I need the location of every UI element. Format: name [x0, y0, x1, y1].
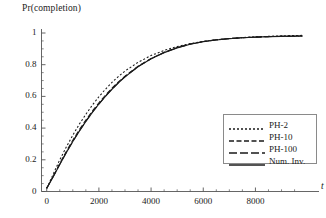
y-tick-label: 0.6	[11, 90, 37, 100]
legend-item: PH-2	[228, 119, 288, 131]
x-tick-label: 2000	[79, 196, 119, 206]
legend-item: PH-10	[228, 131, 293, 143]
y-tick-label: 0.2	[11, 154, 37, 164]
legend-label: PH-10	[269, 132, 293, 142]
legend-line-sample	[228, 120, 266, 130]
legend-label: PH-100	[269, 144, 297, 154]
y-tick-label: 0	[11, 186, 37, 196]
y-tick-label: 1	[11, 27, 37, 37]
legend-item: PH-100	[228, 143, 297, 155]
x-tick-label: 8000	[235, 196, 275, 206]
plot-area	[0, 0, 326, 218]
legend-line-sample	[228, 144, 266, 154]
x-tick-label: 4000	[131, 196, 171, 206]
legend-label: Num. Inv.	[269, 156, 305, 166]
x-tick-label: 6000	[183, 196, 223, 206]
legend-line-sample	[228, 156, 266, 166]
legend-line-sample	[228, 132, 266, 142]
legend-item: Num. Inv.	[228, 155, 305, 167]
legend: PH-2PH-10PH-100Num. Inv.	[223, 114, 317, 164]
chart-root: Pr(completion) 00.20.40.60.81 0200040006…	[0, 0, 326, 218]
axes-layer	[42, 29, 320, 192]
legend-label: PH-2	[269, 120, 288, 130]
y-tick-label: 0.8	[11, 59, 37, 69]
x-axis-label: t	[321, 181, 324, 191]
y-tick-label: 0.4	[11, 122, 37, 132]
x-tick-label: 0	[27, 196, 67, 206]
